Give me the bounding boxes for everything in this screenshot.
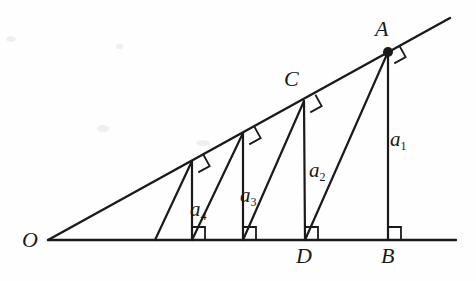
segment-label-a1-base: a <box>390 127 401 151</box>
segment-label-a2-sub: 2 <box>320 170 326 184</box>
point-label-D: D <box>296 245 312 267</box>
segment-label-a1-sub: 1 <box>401 139 407 153</box>
hyp-A-to-D <box>305 52 388 240</box>
point-label-O: O <box>22 229 38 251</box>
segment-label-a4-base: a <box>190 197 201 221</box>
hyp-p4-to-base <box>155 161 192 240</box>
point-label-B: B <box>381 245 394 267</box>
segment-label-a3-sub: 3 <box>251 195 257 209</box>
segment-label-a2-base: a <box>309 158 320 182</box>
hyp-p3-to-foot4 <box>192 133 243 240</box>
segment-label-a2: a2 <box>309 160 326 181</box>
segment-label-a1: a1 <box>390 129 407 150</box>
geometry-figure: O A C D B a1 a2 a3 a4 <box>0 0 476 281</box>
point-label-C: C <box>284 68 299 90</box>
segment-label-a3: a3 <box>240 185 257 206</box>
altitude-a2-CD <box>304 101 305 240</box>
segment-label-a4-sub: 4 <box>201 209 207 223</box>
right-angle-at-p3-ray <box>249 127 260 145</box>
point-marker-A <box>383 47 393 57</box>
hyp-C-to-foot3 <box>243 101 304 240</box>
right-angle-at-B-base <box>388 227 401 240</box>
right-angle-at-C-ray <box>310 95 321 113</box>
point-label-A: A <box>375 18 388 40</box>
segment-label-a4: a4 <box>190 199 207 220</box>
segment-label-a3-base: a <box>240 183 251 207</box>
